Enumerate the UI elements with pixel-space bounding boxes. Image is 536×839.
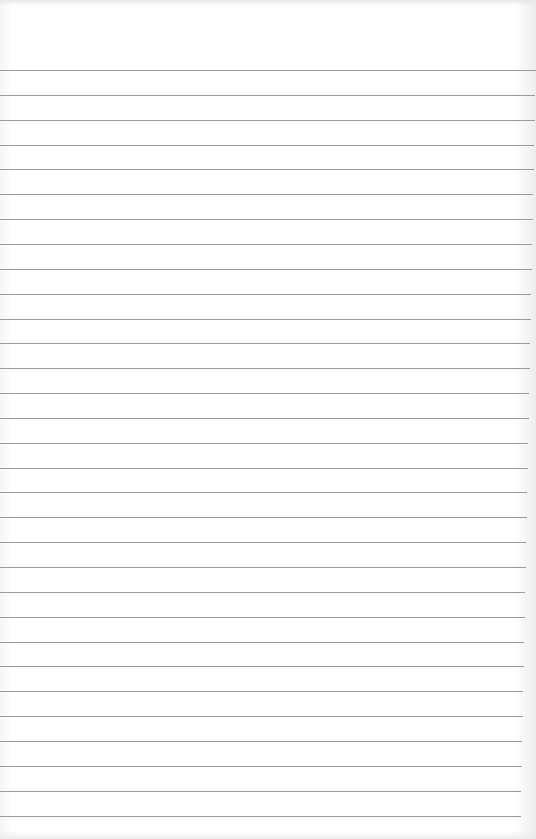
ruled-line bbox=[0, 319, 531, 320]
ruled-line bbox=[0, 666, 524, 667]
ruled-line bbox=[0, 269, 532, 270]
ruled-line bbox=[0, 70, 536, 71]
bottom-edge-shadow bbox=[0, 831, 536, 839]
ruled-line bbox=[0, 418, 529, 419]
ruled-line bbox=[0, 368, 530, 369]
ruled-line bbox=[0, 343, 530, 344]
top-edge-shadow bbox=[0, 0, 536, 6]
ruled-line bbox=[0, 194, 533, 195]
ruled-line bbox=[0, 542, 526, 543]
ruled-line bbox=[0, 120, 535, 121]
ruled-line bbox=[0, 691, 523, 692]
ruled-line bbox=[0, 617, 525, 618]
ruled-line bbox=[0, 741, 522, 742]
ruled-line bbox=[0, 592, 525, 593]
ruled-line bbox=[0, 468, 528, 469]
ruled-line bbox=[0, 791, 521, 792]
ruled-line bbox=[0, 492, 527, 493]
ruled-line bbox=[0, 145, 534, 146]
ruled-line bbox=[0, 716, 523, 717]
ruled-line bbox=[0, 567, 526, 568]
ruled-line bbox=[0, 169, 534, 170]
ruled-line bbox=[0, 393, 529, 394]
ruled-line bbox=[0, 219, 533, 220]
ruled-line bbox=[0, 443, 528, 444]
ruled-line bbox=[0, 517, 527, 518]
ruled-line bbox=[0, 766, 522, 767]
ruled-line bbox=[0, 816, 521, 817]
lined-paper bbox=[0, 0, 536, 839]
ruled-line bbox=[0, 642, 524, 643]
ruled-line bbox=[0, 244, 532, 245]
ruled-line bbox=[0, 95, 535, 96]
ruled-line bbox=[0, 294, 531, 295]
